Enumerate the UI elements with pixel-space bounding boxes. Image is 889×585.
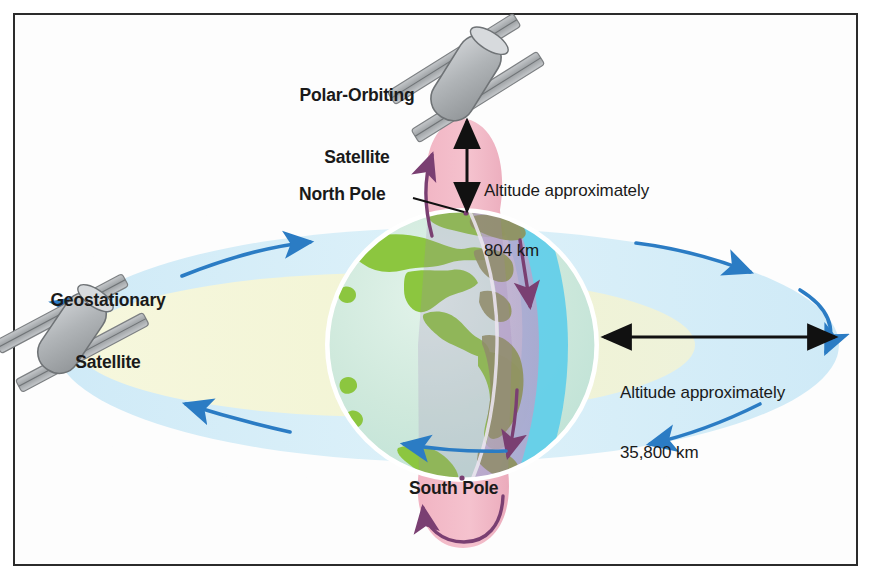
geostationary-satellite-label: Geostationary Satellite: [18, 249, 198, 414]
polar-altitude-label: Altitude approximately 804 km: [484, 141, 649, 301]
geostationary-altitude-label: Altitude approximately 35,800 km: [620, 343, 785, 503]
satellite-orbit-diagram: Polar-Orbiting Satellite Geostationary S…: [0, 0, 889, 585]
polar-satellite-label-line2: Satellite: [262, 147, 452, 168]
polar-altitude-label-line2: 804 km: [484, 241, 649, 261]
polar-satellite-label-line1: Polar-Orbiting: [262, 85, 452, 106]
geostationary-satellite-label-line2: Satellite: [18, 352, 198, 373]
polar-altitude-label-line1: Altitude approximately: [484, 181, 649, 201]
geostationary-satellite-label-line1: Geostationary: [18, 290, 198, 311]
south-pole-label: South Pole: [409, 478, 498, 499]
geostationary-altitude-label-line2: 35,800 km: [620, 443, 785, 463]
geostationary-altitude-label-line1: Altitude approximately: [620, 383, 785, 403]
north-pole-label: North Pole: [299, 184, 385, 205]
